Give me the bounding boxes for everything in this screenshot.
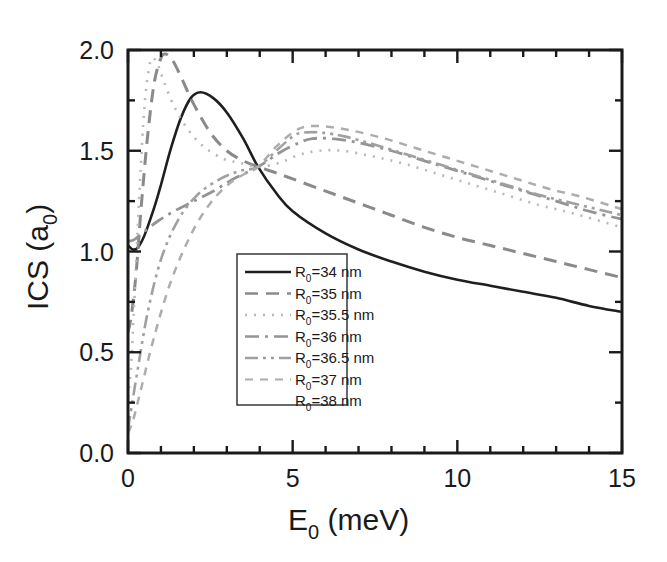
figure-container: 0510150.00.51.01.52.0 E0 (meV) ICS (a0) … xyxy=(0,0,667,562)
y-tick-label: 1.5 xyxy=(79,137,114,165)
x-tick-label: 10 xyxy=(443,464,471,492)
y-tick-label: 0.5 xyxy=(79,338,114,366)
y-tick-label: 0.0 xyxy=(79,439,114,467)
x-tick-label: 0 xyxy=(121,464,135,492)
y-tick-label: 1.0 xyxy=(79,238,114,266)
x-tick-label: 15 xyxy=(608,464,636,492)
x-tick-label: 5 xyxy=(286,464,300,492)
ics-vs-e0-line-chart: 0510150.00.51.01.52.0 E0 (meV) ICS (a0) … xyxy=(0,0,667,562)
y-tick-label: 2.0 xyxy=(79,36,114,64)
